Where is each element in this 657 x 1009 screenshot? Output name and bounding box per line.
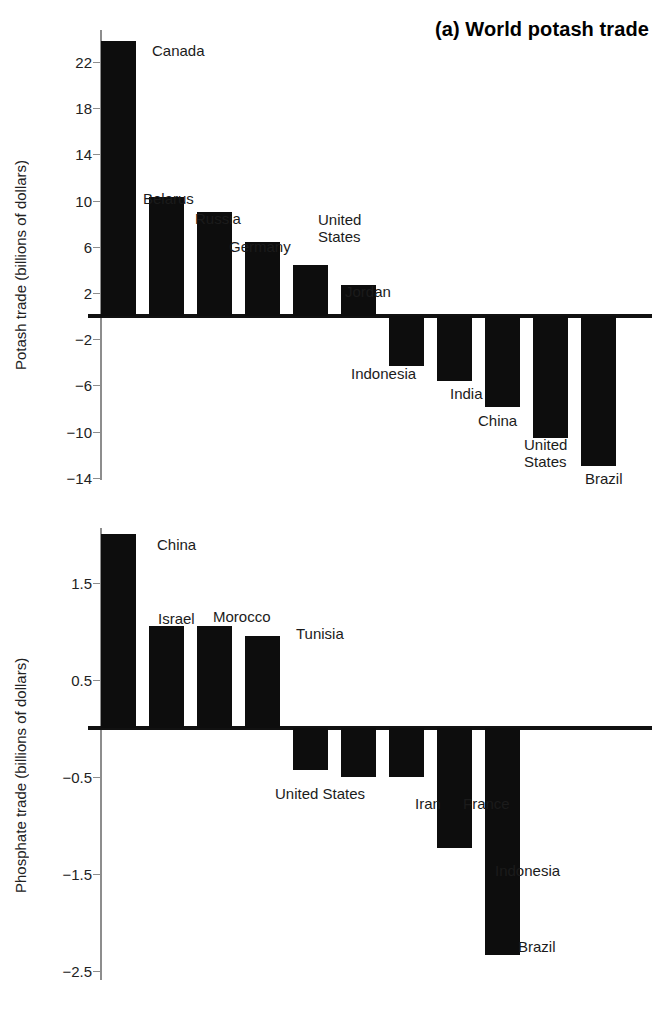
y-axis-tick bbox=[93, 680, 100, 681]
y-axis-tick bbox=[93, 293, 100, 294]
y-axis-tick-label: 2 bbox=[84, 284, 92, 301]
y-axis-tick-label: −14 bbox=[67, 469, 92, 486]
y-axis-tick bbox=[93, 201, 100, 202]
y-axis-tick bbox=[93, 385, 100, 386]
bar-country-label: Germany bbox=[229, 238, 291, 255]
bar-country-label: United bbox=[318, 211, 361, 228]
y-axis-tick bbox=[93, 339, 100, 340]
y-axis-tick bbox=[93, 583, 100, 584]
y-axis-tick-label: 6 bbox=[84, 238, 92, 255]
bar-country-label: Brazil bbox=[518, 938, 556, 955]
y-axis-tick-label: 14 bbox=[75, 146, 92, 163]
y-axis-tick-label: −2 bbox=[75, 331, 92, 348]
bar bbox=[101, 534, 136, 728]
bar bbox=[485, 316, 520, 407]
bar bbox=[389, 316, 424, 366]
bar bbox=[389, 728, 424, 777]
bar-country-label: Iran bbox=[415, 795, 441, 812]
bar-country-label: United bbox=[524, 436, 567, 453]
bar bbox=[581, 316, 616, 466]
bar-country-label: States bbox=[524, 453, 567, 470]
y-axis-tick-label: 1.5 bbox=[71, 574, 92, 591]
bar bbox=[293, 265, 328, 316]
y-axis-tick bbox=[93, 108, 100, 109]
y-axis-tick-label: −2.5 bbox=[62, 962, 92, 979]
bar-country-label: Morocco bbox=[213, 608, 271, 625]
y-axis-tick-label: −0.5 bbox=[62, 768, 92, 785]
bar-country-label: Indonesia bbox=[495, 862, 560, 879]
bar bbox=[197, 212, 232, 316]
y-axis-tick bbox=[93, 432, 100, 433]
bar bbox=[341, 728, 376, 777]
y-axis-tick-label: −10 bbox=[67, 423, 92, 440]
bar-country-label: United States bbox=[275, 785, 365, 802]
bar bbox=[245, 636, 280, 728]
y-axis-tick bbox=[93, 874, 100, 875]
bar bbox=[149, 197, 184, 316]
bar-country-label: Tunisia bbox=[296, 625, 344, 642]
bar-country-label: France bbox=[463, 795, 510, 812]
bar-country-label: India bbox=[450, 385, 483, 402]
bar-country-label: China bbox=[478, 412, 517, 429]
bar bbox=[197, 626, 232, 728]
plot-area-potash: 2218141062−2−6−10−14CanadaBelarusRussiaG… bbox=[0, 0, 657, 505]
y-axis-tick-label: 10 bbox=[75, 192, 92, 209]
bar-country-label: Indonesia bbox=[351, 365, 416, 382]
y-axis-tick bbox=[93, 62, 100, 63]
y-axis-tick-label: 18 bbox=[75, 100, 92, 117]
bar bbox=[293, 728, 328, 770]
bar bbox=[533, 316, 568, 438]
bar bbox=[437, 316, 472, 381]
bar bbox=[485, 728, 520, 955]
bar-country-label: Russia bbox=[195, 210, 241, 227]
y-axis-tick bbox=[93, 971, 100, 972]
y-axis-tick bbox=[93, 247, 100, 248]
y-axis-tick bbox=[93, 777, 100, 778]
y-axis-tick-label: −1.5 bbox=[62, 865, 92, 882]
chart-panel-potash: (a) World potash trade Potash trade (bil… bbox=[0, 0, 657, 505]
bar-country-label: Israel bbox=[158, 610, 195, 627]
bar-country-label: Canada bbox=[152, 42, 205, 59]
y-axis-tick-label: 22 bbox=[75, 53, 92, 70]
bar-country-label: Belarus bbox=[143, 190, 194, 207]
y-axis-tick-label: −6 bbox=[75, 377, 92, 394]
plot-area-phosphate: 1.50.5−0.5−1.5−2.5ChinaIsraelMoroccoTuni… bbox=[0, 505, 657, 1009]
y-axis-tick bbox=[93, 478, 100, 479]
bar-country-label: China bbox=[157, 536, 196, 553]
bar bbox=[101, 41, 136, 316]
bar-country-label: Jordan bbox=[345, 283, 391, 300]
chart-panel-phosphate: (b) World phosphate trade Phosphate trad… bbox=[0, 505, 657, 1009]
y-axis-tick bbox=[93, 154, 100, 155]
bar bbox=[437, 728, 472, 848]
bar bbox=[149, 626, 184, 728]
bar-country-label: States bbox=[318, 228, 361, 245]
y-axis-tick-label: 0.5 bbox=[71, 671, 92, 688]
bar-country-label: Brazil bbox=[585, 470, 623, 487]
